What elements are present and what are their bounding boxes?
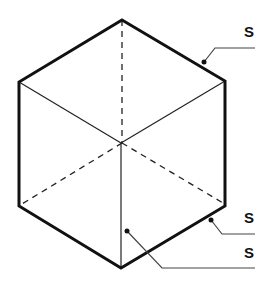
hidden-edges — [22, 20, 223, 204]
label-bottom-face: S — [244, 245, 254, 260]
leader-dots — [125, 60, 214, 234]
cube-diagram — [0, 0, 268, 284]
label-top-right: S — [244, 24, 254, 39]
leader-lines — [127, 48, 255, 268]
label-bottom-right: S — [244, 210, 254, 225]
